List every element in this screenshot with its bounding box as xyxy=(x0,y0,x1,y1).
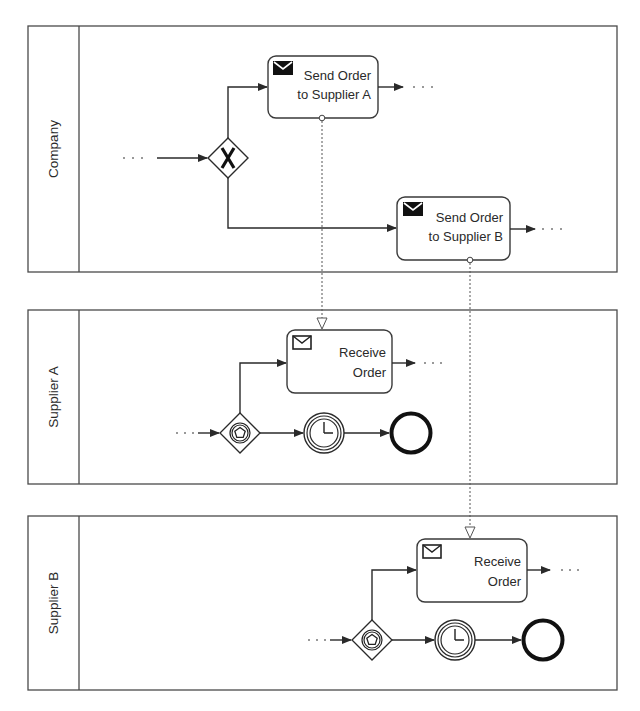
send-message-icon xyxy=(273,61,293,75)
end-event[interactable] xyxy=(524,621,563,660)
task-label: to Supplier B xyxy=(429,229,503,244)
task-label: Receive xyxy=(474,554,521,569)
pool-label-company: Company xyxy=(46,120,61,178)
timer-event[interactable] xyxy=(435,620,475,660)
task-send-order-supplier-a[interactable]: Send Order to Supplier A xyxy=(268,56,378,118)
task-receive-order-supplier-b[interactable]: Receive Order xyxy=(417,539,527,602)
task-label: Order xyxy=(488,574,522,589)
bpmn-diagram: Company Send Order to Supplier A Send Or… xyxy=(0,0,640,711)
end-event[interactable] xyxy=(392,414,431,453)
task-label: to Supplier A xyxy=(297,87,371,102)
receive-message-icon xyxy=(293,336,311,349)
task-label: Send Order xyxy=(304,68,372,83)
timer-event[interactable] xyxy=(304,413,344,453)
pool-label-supplier-a: Supplier A xyxy=(46,366,61,428)
task-label: Send Order xyxy=(436,210,504,225)
task-label: Order xyxy=(353,365,387,380)
send-message-icon xyxy=(403,202,423,216)
task-label: Receive xyxy=(339,345,386,360)
receive-message-icon xyxy=(423,545,441,558)
task-receive-order-supplier-a[interactable]: Receive Order xyxy=(287,330,392,393)
pool-supplier-b: Supplier B xyxy=(28,516,617,690)
task-send-order-supplier-b[interactable]: Send Order to Supplier B xyxy=(397,197,510,260)
pool-label-supplier-b: Supplier B xyxy=(46,572,61,634)
